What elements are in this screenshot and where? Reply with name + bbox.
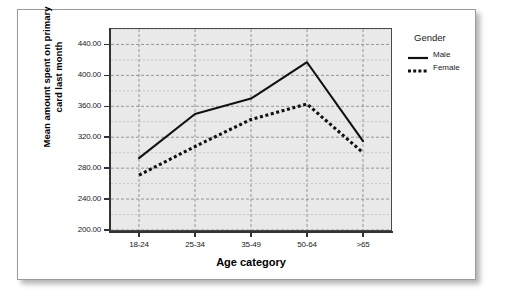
legend-label: Female [433, 63, 460, 72]
scanned-page: 200.00240.00280.00320.00360.00400.00440.… [0, 0, 529, 304]
legend-item-female: Female [408, 62, 478, 72]
y-axis-tick [104, 167, 110, 169]
x-axis-tick-label: 50-64 [282, 240, 332, 249]
y-axis-tick-label: 240.00 [56, 194, 101, 203]
x-axis-tick-label: >65 [338, 240, 388, 249]
legend-item-male: Male [408, 49, 478, 59]
plot-svg [111, 29, 391, 230]
y-axis-tick [104, 106, 110, 108]
legend-entries: MaleFemale [408, 49, 478, 72]
x-axis-tick-label: 35-49 [226, 240, 276, 249]
x-axis-tick [194, 232, 196, 237]
y-axis-tick [104, 136, 110, 138]
legend-swatch-solid [408, 49, 430, 59]
line-chart: 200.00240.00280.00320.00360.00400.00440.… [18, 10, 477, 281]
y-axis-tick [104, 229, 110, 231]
y-axis-title: Mean amount spent on primary card last m… [41, 0, 65, 157]
legend: Gender MaleFemale [408, 32, 478, 75]
y-axis-line [109, 28, 111, 232]
y-axis-tick [104, 44, 110, 46]
chart-card: 200.00240.00280.00320.00360.00400.00440.… [17, 9, 476, 280]
x-axis-tick [138, 232, 140, 237]
x-axis-tick [306, 232, 308, 237]
x-axis-tick [362, 232, 364, 237]
x-axis-tick-label: 18-24 [114, 240, 164, 249]
x-axis-tick [250, 232, 252, 237]
x-axis-title: Age category [110, 256, 392, 268]
legend-title: Gender [414, 32, 478, 43]
y-axis-tick-label: 280.00 [56, 163, 101, 172]
legend-label: Male [433, 50, 450, 59]
legend-swatch-dotted [408, 62, 430, 72]
y-axis-tick [104, 75, 110, 77]
plot-area [110, 28, 392, 231]
x-axis-tick-label: 25-34 [170, 240, 220, 249]
y-axis-tick [104, 198, 110, 200]
y-axis-tick-label: 200.00 [56, 225, 101, 234]
